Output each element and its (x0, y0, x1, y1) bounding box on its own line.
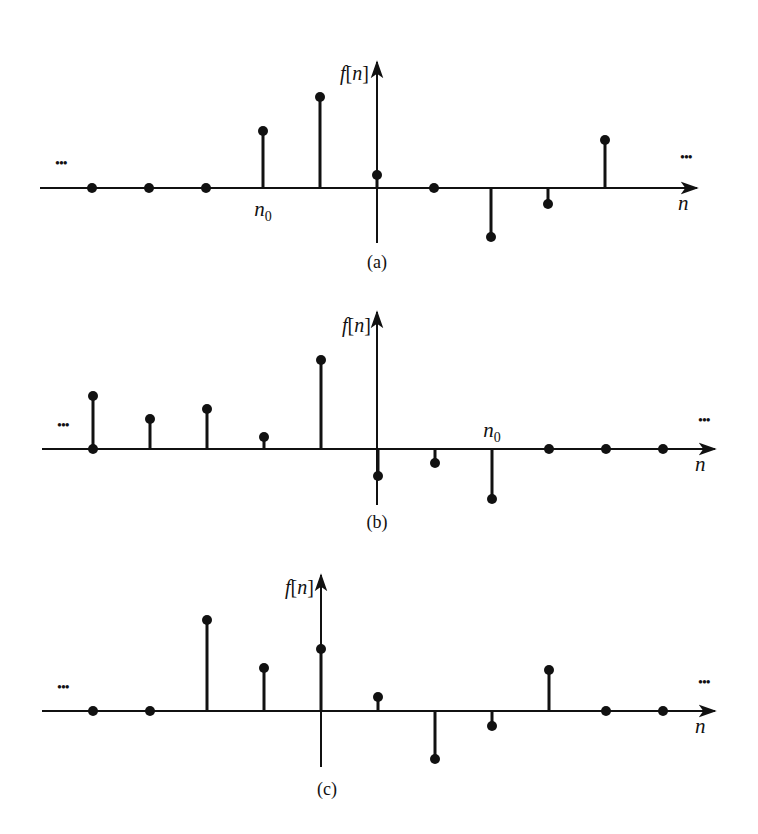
sample-dot (202, 404, 212, 414)
sample-dot (258, 126, 268, 136)
sample-dot (429, 183, 439, 193)
ellipsis-left: ••• (57, 418, 70, 433)
ellipsis-right: ••• (698, 675, 711, 690)
sample-dot (430, 754, 440, 764)
discrete-signal-figure: f[n]n••••••n0(a) f[n]n••••••n0(b) f[n]n•… (0, 0, 758, 834)
sample-dot (316, 355, 326, 365)
sample-dot (145, 706, 155, 716)
sample-dot (316, 644, 326, 654)
x-axis-label: n (695, 452, 706, 476)
sample-dot (430, 458, 440, 468)
sample-dot (373, 692, 383, 702)
sample-dot (201, 183, 211, 193)
y-axis-label: f[n] (342, 314, 371, 337)
sample-dot (658, 706, 668, 716)
sample-dot (372, 170, 382, 180)
sample-dot (202, 615, 212, 625)
ellipsis-left: ••• (55, 156, 68, 171)
sample-dot (658, 444, 668, 454)
ellipsis-right: ••• (698, 413, 711, 428)
y-axis-label: f[n] (340, 62, 369, 85)
x-axis-label: n (678, 191, 689, 215)
sample-dot (88, 444, 98, 454)
n0-marker-label: n0 (254, 197, 272, 224)
panel-caption: (a) (367, 252, 387, 273)
sample-dot (373, 471, 383, 481)
sample-dot (487, 494, 497, 504)
ellipsis-left: ••• (57, 680, 70, 695)
sample-dot (144, 183, 154, 193)
ellipsis-right: ••• (680, 150, 693, 165)
sample-dot (601, 706, 611, 716)
sample-dot (315, 92, 325, 102)
sample-dot (87, 183, 97, 193)
sample-dot (601, 444, 611, 454)
sample-dot (259, 663, 269, 673)
sample-dot (543, 199, 553, 209)
y-axis-label: f[n] (285, 576, 314, 599)
sample-dot (544, 665, 554, 675)
sample-dot (88, 391, 98, 401)
sample-dot (88, 706, 98, 716)
panel-b-stem-plot: f[n]n••••••n0(b) (42, 312, 715, 533)
panel-caption: (b) (367, 512, 388, 533)
panel-a-stem-plot: f[n]n••••••n0(a) (40, 62, 697, 273)
sample-dot (600, 135, 610, 145)
panel-c-stem-plot: f[n]n••••••(c) (42, 575, 715, 800)
sample-dot (486, 232, 496, 242)
sample-dot (544, 444, 554, 454)
x-axis-label: n (695, 714, 706, 738)
sample-dot (487, 721, 497, 731)
sample-dot (145, 414, 155, 424)
panel-caption: (c) (317, 779, 337, 800)
sample-dot (259, 432, 269, 442)
n0-marker-label: n0 (483, 418, 501, 445)
